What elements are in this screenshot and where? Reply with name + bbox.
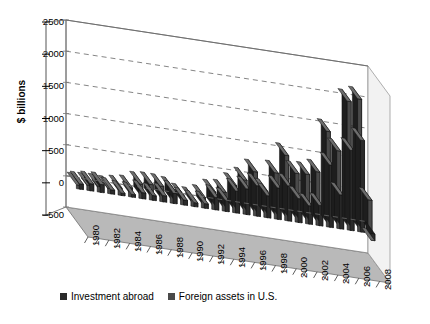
- x-tick-0: [85, 237, 89, 243]
- x-tick-12: [209, 256, 213, 262]
- x-tick-label-1982: 1982: [112, 228, 122, 249]
- x-tick-10: [189, 253, 193, 259]
- x-tick-label-1988: 1988: [175, 237, 185, 258]
- x-tick-label-2000: 2000: [299, 256, 309, 277]
- legend-swatch-icon: [168, 293, 175, 300]
- x-tick-label-1998: 1998: [279, 253, 289, 274]
- x-tick-label-1992: 1992: [216, 244, 226, 265]
- legend-label: Foreign assets in U.S.: [179, 291, 277, 302]
- x-tick-14: [230, 259, 234, 265]
- x-tick-6: [147, 247, 151, 253]
- x-tick-4: [126, 243, 129, 249]
- y-axis-bottom-connector: [46, 207, 66, 215]
- legend-item-1[interactable]: Foreign assets in U.S.: [168, 291, 277, 302]
- x-tick-18: [272, 266, 276, 272]
- x-tick-label-1986: 1986: [154, 234, 164, 255]
- chart-legend: Investment abroadForeign assets in U.S.: [60, 291, 277, 302]
- x-tick-16: [251, 262, 255, 268]
- x-tick-2: [105, 240, 109, 246]
- x-tick-label-1996: 1996: [258, 250, 268, 271]
- x-tick-label-2008: 2008: [383, 269, 393, 290]
- x-tick-26: [355, 278, 359, 284]
- chart-root: $ billions 25002000150010005000–500 1980…: [0, 0, 430, 324]
- x-tick-28: [376, 281, 380, 287]
- x-tick-24: [334, 275, 338, 281]
- x-tick-label-2006: 2006: [362, 266, 372, 287]
- x-tick-label-1994: 1994: [237, 247, 247, 268]
- x-tick-8: [168, 250, 172, 256]
- x-tick-20: [293, 269, 297, 275]
- legend-item-0[interactable]: Investment abroad: [60, 291, 154, 302]
- x-tick-label-2004: 2004: [341, 263, 351, 284]
- x-tick-label-1980: 1980: [91, 225, 101, 246]
- x-tick-22: [314, 272, 318, 278]
- legend-swatch-icon: [60, 293, 67, 300]
- legend-label: Investment abroad: [71, 291, 154, 302]
- x-tick-label-2002: 2002: [320, 260, 330, 281]
- x-tick-label-1984: 1984: [133, 231, 143, 252]
- right-side-wall: [368, 66, 390, 283]
- x-tick-label-1990: 1990: [195, 241, 205, 262]
